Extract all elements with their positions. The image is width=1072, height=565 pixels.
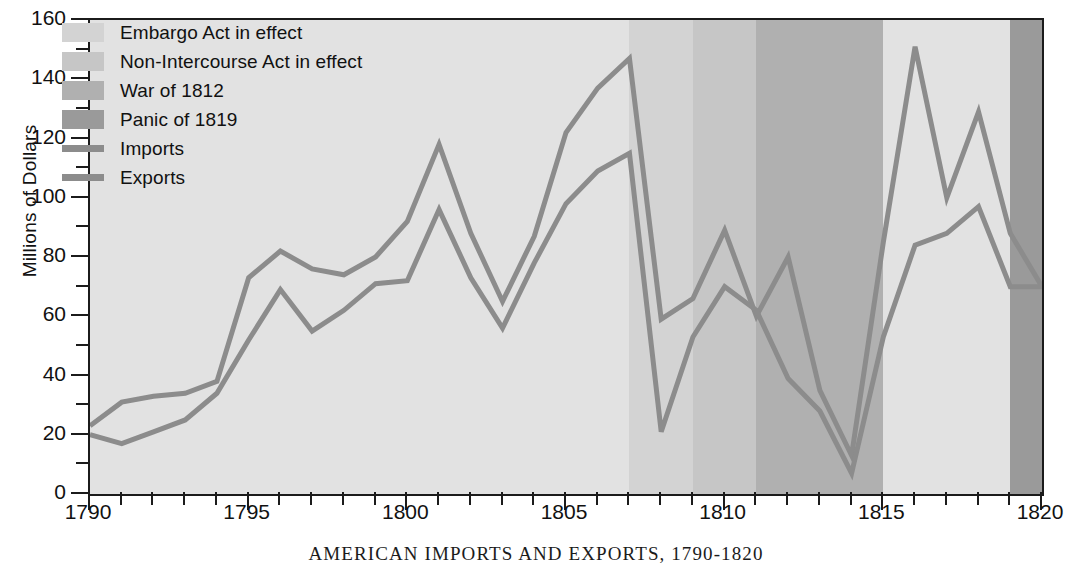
- chart-legend: Embargo Act in effectNon-Intercourse Act…: [62, 18, 482, 192]
- x-tick-label: 1810: [699, 500, 746, 524]
- legend-label: Exports: [120, 167, 185, 189]
- legend-color-swatch: [62, 52, 104, 71]
- figure-caption: AMERICAN IMPORTS AND EXPORTS, 1790-1820: [0, 543, 1072, 565]
- legend-color-swatch: [62, 81, 104, 100]
- legend-item: Imports: [62, 134, 482, 163]
- y-tick-mark: [71, 196, 88, 198]
- y-tick-mark: [71, 433, 88, 435]
- x-tick-label: 1800: [382, 500, 429, 524]
- y-minor-tick-mark: [76, 285, 88, 287]
- legend-item: Embargo Act in effect: [62, 18, 482, 47]
- legend-label: War of 1812: [120, 80, 224, 102]
- y-minor-tick-mark: [76, 403, 88, 405]
- y-minor-tick-mark: [76, 344, 88, 346]
- legend-label: Imports: [120, 138, 184, 160]
- legend-label: Panic of 1819: [120, 109, 238, 131]
- y-tick-label: 80: [0, 244, 74, 265]
- legend-label: Embargo Act in effect: [120, 22, 302, 44]
- x-tick-label: 1805: [541, 500, 588, 524]
- legend-item: Panic of 1819: [62, 105, 482, 134]
- y-tick-mark: [71, 314, 88, 316]
- x-tick-label: 1795: [223, 500, 270, 524]
- legend-label: Non-Intercourse Act in effect: [120, 51, 362, 73]
- legend-item: Exports: [62, 163, 482, 192]
- x-tick-label: 1815: [858, 500, 905, 524]
- x-axis-tick-labels: 1790179518001805181018151820: [0, 500, 1072, 528]
- y-tick-mark: [71, 374, 88, 376]
- y-tick-mark: [71, 255, 88, 257]
- legend-item: Non-Intercourse Act in effect: [62, 47, 482, 76]
- x-tick-label: 1820: [1017, 500, 1064, 524]
- legend-item: War of 1812: [62, 76, 482, 105]
- y-tick-label: 40: [0, 363, 74, 384]
- y-tick-mark: [71, 492, 88, 494]
- legend-color-swatch: [62, 23, 104, 42]
- legend-line-swatch: [62, 174, 104, 181]
- y-minor-tick-mark: [76, 462, 88, 464]
- legend-line-swatch: [62, 145, 104, 152]
- x-tick-label: 1790: [65, 500, 112, 524]
- legend-color-swatch: [62, 110, 104, 129]
- y-tick-label: 0: [0, 481, 74, 502]
- y-tick-label: 20: [0, 422, 74, 443]
- y-tick-label: 60: [0, 303, 74, 324]
- y-minor-tick-mark: [76, 225, 88, 227]
